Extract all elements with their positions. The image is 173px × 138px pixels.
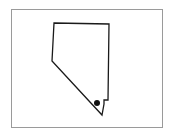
state-map [0, 0, 173, 138]
city-marker-dot [94, 100, 100, 106]
state-outline [52, 23, 109, 115]
